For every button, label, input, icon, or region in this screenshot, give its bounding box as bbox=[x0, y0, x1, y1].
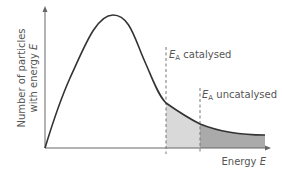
y-axis-label-line2: with energy E bbox=[28, 43, 39, 112]
ea-uncatalysed-label: EA uncatalysed bbox=[202, 89, 277, 102]
y-axis-arrow-icon bbox=[43, 6, 48, 12]
distribution-curve bbox=[45, 15, 265, 148]
ea-catalysed-label: EA catalysed bbox=[169, 49, 231, 62]
x-axis-label: Energy E bbox=[221, 156, 266, 167]
x-axis-arrow-icon bbox=[265, 146, 271, 151]
y-axis-label-line1: Number of particles bbox=[16, 28, 27, 127]
energy-distribution-chart: Number of particles with energy E EA cat… bbox=[0, 0, 282, 171]
catalysed-shaded-area bbox=[166, 103, 200, 148]
